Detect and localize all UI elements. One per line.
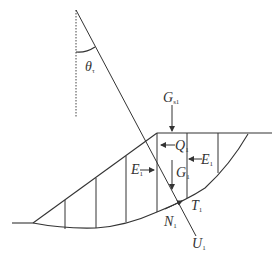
slice-lines [65,133,218,229]
diagram-svg: θτ Gs1 Q1 E1 E1 G1 T1 N1 [0,0,279,257]
label-t1: T1 [191,198,203,214]
inclined-normal-line [76,10,196,236]
label-u1: U1 [192,236,206,252]
label-e1-right: E1 [200,152,214,168]
label-e1-left: E1 [130,162,144,178]
label-gs1: Gs1 [163,90,180,106]
label-g1: G1 [176,165,190,181]
angle-arc [76,47,95,52]
slope-face-line [33,133,157,223]
slope-diagram: θτ Gs1 Q1 E1 E1 G1 T1 N1 [0,0,279,257]
label-n1: N1 [163,214,177,230]
force-arrows [140,105,202,209]
angle-label: θτ [85,59,95,75]
slope-profile [12,133,272,223]
